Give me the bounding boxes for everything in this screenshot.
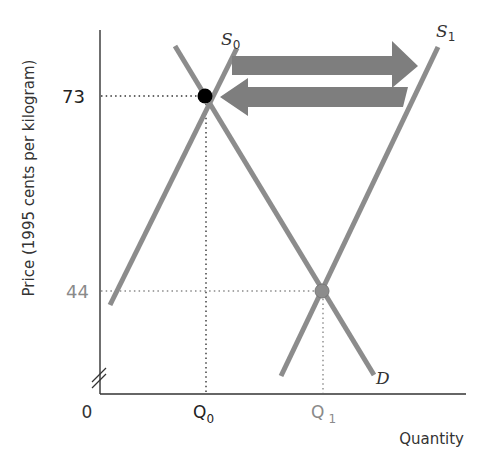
x-tick-q0: Q0 bbox=[193, 402, 214, 426]
axis-break-icon bbox=[92, 368, 106, 388]
origin-label: 0 bbox=[82, 402, 93, 422]
x-axis-label: Quantity bbox=[399, 430, 464, 448]
y-axis-label: Price (1995 cents per kilogram) bbox=[20, 60, 38, 297]
guide-lines bbox=[101, 96, 323, 393]
supply-demand-diagram: Price (1995 cents per kilogram) S0 S1 D … bbox=[0, 0, 482, 455]
x-tick-q1: Q1 bbox=[311, 402, 336, 426]
arrow-right-icon bbox=[232, 41, 418, 88]
y-tick-73: 73 bbox=[62, 86, 85, 107]
arrow-left-icon bbox=[220, 78, 408, 116]
y-tick-44: 44 bbox=[66, 281, 89, 302]
curve-label-d: D bbox=[375, 368, 390, 388]
supply-curve-s0 bbox=[110, 48, 237, 305]
equilibrium-point-new bbox=[315, 284, 329, 298]
equilibrium-point-initial bbox=[198, 89, 213, 104]
curve-label-s1: S1 bbox=[436, 21, 455, 44]
curve-label-s0: S0 bbox=[221, 29, 240, 52]
